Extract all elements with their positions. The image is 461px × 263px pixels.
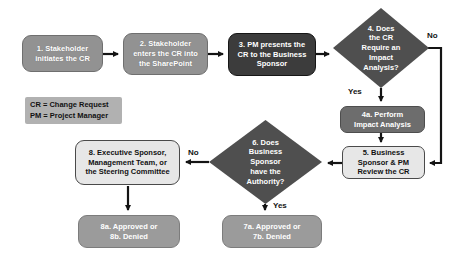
- edge-label-yes-6: Yes: [273, 201, 287, 210]
- edge-4-no-to-5: [428, 48, 441, 163]
- node-1-stakeholder-initiates: 1. Stakeholder initiates the CR: [22, 35, 103, 72]
- node-8-executive-sponsor-committee: 8. Executive Sponsor, Management Team, o…: [75, 140, 180, 185]
- node-7-approved-or-denied: 7a. Approved or 7b. Denied: [222, 215, 322, 248]
- node-5-review-the-cr: 5. Business Sponsor & PM Review the CR: [342, 146, 425, 179]
- legend-box: CR = Change Request PM = Project Manager: [25, 97, 122, 124]
- flowchart-canvas: 1. Stakeholder initiates the CR 2. Stake…: [0, 0, 461, 263]
- edge-label-no-6: No: [188, 148, 199, 157]
- node-2-stakeholder-enters-cr: 2. Stakeholder enters the CR into the Sh…: [123, 33, 208, 75]
- edge-label-no-4: No: [427, 31, 438, 40]
- node-4a-perform-impact-analysis: 4a. Perform Impact Analysis: [340, 106, 425, 133]
- node-3-pm-presents-cr: 3. PM presents the CR to the Business Sp…: [228, 33, 316, 76]
- edge-label-yes-4: Yes: [348, 87, 362, 96]
- node-8ab-approved-or-denied: 8a. Approved or 8b. Denied: [78, 215, 180, 248]
